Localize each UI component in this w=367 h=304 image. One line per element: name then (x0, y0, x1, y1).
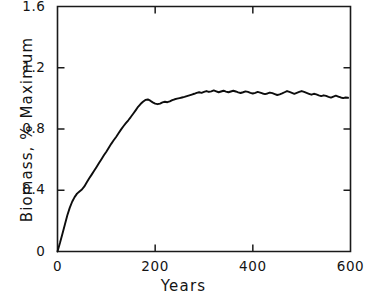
biomass-line-series (58, 90, 349, 251)
x-axis-tick-marks (155, 7, 253, 252)
x-tick-label: 200 (115, 260, 195, 274)
y-tick-label: 0 (0, 245, 46, 259)
axis-frame-path (58, 7, 351, 252)
x-tick-label: 600 (311, 260, 367, 274)
biomass-chart-figure: 00.40.81.21.6 0200400600 Years Biomass, … (0, 0, 367, 304)
data-series-group (58, 90, 349, 251)
y-tick-label: 1.6 (0, 0, 46, 13)
x-tick-label: 400 (213, 260, 293, 274)
y-axis-title: Biomass, % Maximum (20, 15, 35, 245)
y-axis-tick-marks (58, 68, 351, 191)
x-tick-label: 0 (18, 260, 98, 274)
x-axis-title: Years (0, 279, 367, 294)
axes-frame (58, 7, 351, 252)
